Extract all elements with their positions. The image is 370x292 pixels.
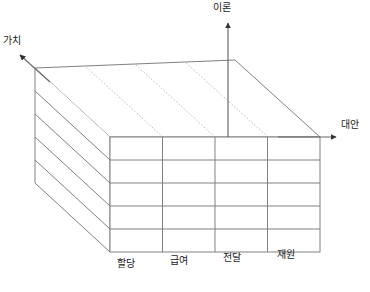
axis-label-option: 대안 xyxy=(341,120,359,130)
cube-diagram-svg xyxy=(0,0,370,292)
column-label-1: 급여 xyxy=(170,256,188,266)
front-face-grid xyxy=(110,137,320,252)
column-label-3: 재원 xyxy=(277,250,295,260)
diagram-canvas: 이론 가치 대안 할당 급여 전달 재원 xyxy=(0,0,370,292)
column-label-0: 할당 xyxy=(117,259,135,269)
column-label-2: 전달 xyxy=(223,253,241,263)
axis-label-theory: 이론 xyxy=(213,3,231,13)
axis-label-value: 가치 xyxy=(3,36,21,46)
